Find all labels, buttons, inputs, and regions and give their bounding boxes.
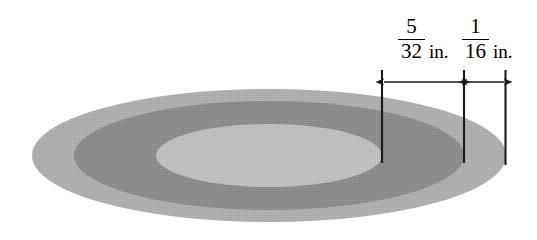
- dimension-label-five-thirtyseconds: 5 32 in.: [398, 16, 449, 63]
- dimension-unit: in.: [493, 42, 513, 63]
- fraction-denominator: 32: [398, 39, 425, 63]
- dimension-unit: in.: [429, 42, 449, 63]
- inner-hole-texture: [156, 124, 382, 187]
- washer-body: [32, 89, 506, 222]
- dimension-label-one-sixteenth: 1 16 in.: [462, 16, 513, 63]
- fraction-one-sixteenth: 1 16: [462, 16, 489, 63]
- fraction-numerator: 1: [467, 16, 484, 39]
- figure-canvas: [0, 0, 537, 240]
- fraction-denominator: 16: [462, 39, 489, 63]
- fraction-numerator: 5: [403, 16, 420, 39]
- washer-dimension-figure: 5 32 in. 1 16 in.: [0, 0, 537, 240]
- fraction-five-thirtyseconds: 5 32: [398, 16, 425, 63]
